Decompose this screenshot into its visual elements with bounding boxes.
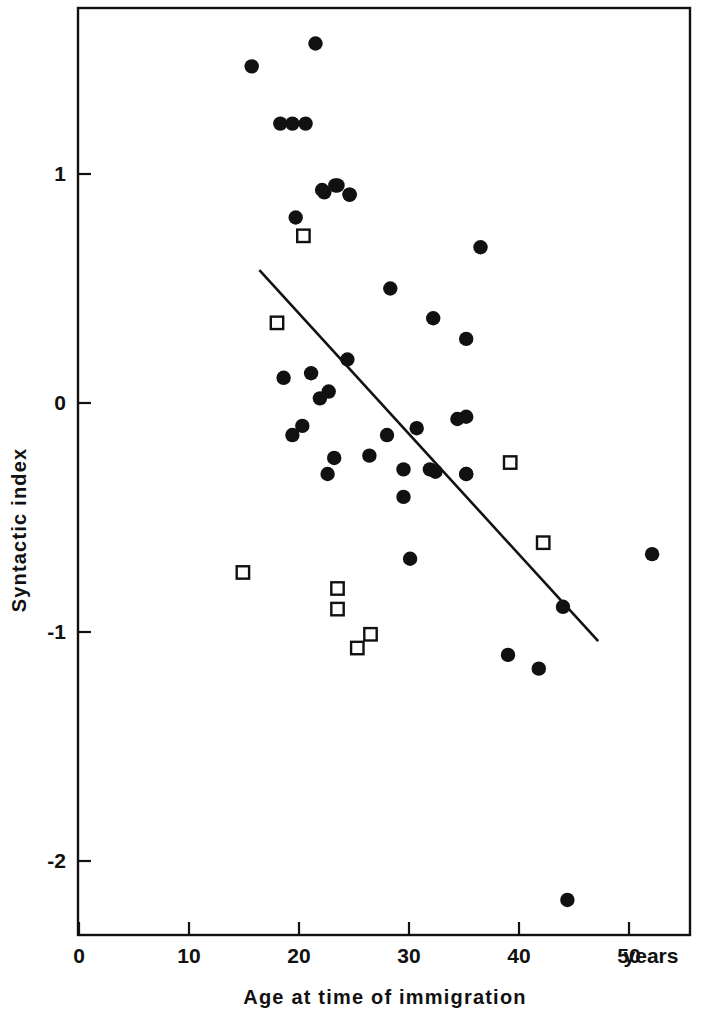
data-point-filled-circle <box>403 552 417 566</box>
data-point-filled-circle <box>308 36 322 50</box>
data-point-filled-circle <box>459 332 473 346</box>
data-point-open-square <box>237 566 249 578</box>
data-point-filled-circle <box>426 311 440 325</box>
data-point-open-square <box>271 317 283 329</box>
data-point-open-square <box>331 603 343 615</box>
data-point-open-square <box>351 642 363 654</box>
data-point-filled-circle <box>285 116 299 130</box>
data-point-filled-circle <box>327 451 341 465</box>
data-point-open-square <box>331 582 343 594</box>
y-axis-title: Syntactic index <box>8 448 30 613</box>
x-axis-title: Age at time of immigration <box>243 986 526 1008</box>
plot-background <box>0 0 713 1018</box>
data-point-filled-circle <box>342 187 356 201</box>
data-point-filled-circle <box>276 371 290 385</box>
data-point-filled-circle <box>473 240 487 254</box>
data-point-filled-circle <box>645 547 659 561</box>
y-tick-label: 1 <box>54 162 66 185</box>
data-point-filled-circle <box>328 178 342 192</box>
data-point-filled-circle <box>285 428 299 442</box>
figure-container: 01020304050 10-1-2 years Age at time of … <box>0 0 713 1018</box>
y-tick-label: 0 <box>54 391 66 414</box>
scatter-plot: 01020304050 10-1-2 years Age at time of … <box>0 0 713 1018</box>
data-point-filled-circle <box>396 462 410 476</box>
data-point-filled-circle <box>423 462 437 476</box>
data-point-filled-circle <box>298 116 312 130</box>
y-tick-label: -2 <box>47 849 66 872</box>
data-point-filled-circle <box>289 210 303 224</box>
data-point-open-square <box>504 456 516 468</box>
x-tick-label: 0 <box>73 944 85 967</box>
data-point-filled-circle <box>560 893 574 907</box>
data-point-filled-circle <box>501 648 515 662</box>
y-tick-label: -1 <box>47 620 66 643</box>
data-point-open-square <box>297 230 309 242</box>
data-point-filled-circle <box>362 448 376 462</box>
data-point-filled-circle <box>304 366 318 380</box>
data-point-open-square <box>537 536 549 548</box>
x-tick-label: 10 <box>177 944 200 967</box>
data-point-filled-circle <box>313 391 327 405</box>
data-point-filled-circle <box>532 661 546 675</box>
data-point-filled-circle <box>383 281 397 295</box>
data-point-filled-circle <box>320 467 334 481</box>
data-point-filled-circle <box>340 352 354 366</box>
x-tick-label: 30 <box>397 944 420 967</box>
x-tick-label: 40 <box>507 944 530 967</box>
data-point-filled-circle <box>459 467 473 481</box>
data-point-filled-circle <box>245 59 259 73</box>
data-point-filled-circle <box>396 490 410 504</box>
data-point-open-square <box>364 628 376 640</box>
x-tick-label: 20 <box>287 944 310 967</box>
data-point-filled-circle <box>556 600 570 614</box>
data-point-filled-circle <box>410 421 424 435</box>
data-point-filled-circle <box>380 428 394 442</box>
x-axis-unit-label: years <box>624 944 679 967</box>
data-point-filled-circle <box>459 410 473 424</box>
